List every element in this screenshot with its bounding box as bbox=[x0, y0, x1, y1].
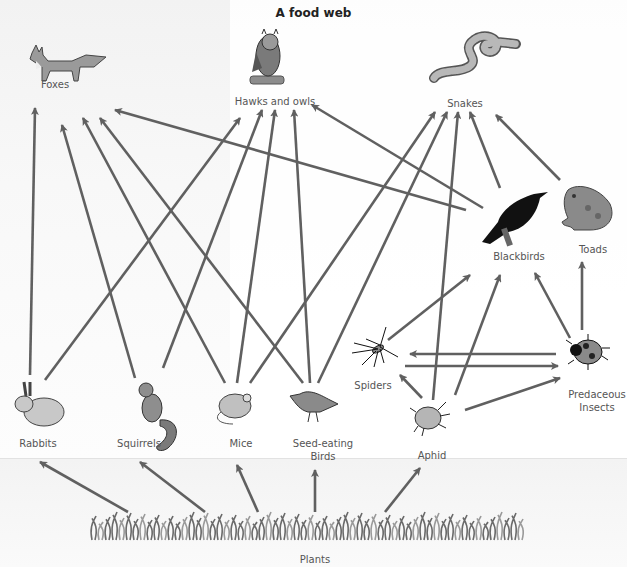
arrow-blackbirds-to-snakes bbox=[470, 112, 500, 188]
aphid-icon bbox=[410, 402, 450, 436]
grass-blade bbox=[308, 515, 313, 540]
label-toads: Toads bbox=[568, 243, 618, 256]
mouse-icon bbox=[217, 394, 251, 424]
grass-blade bbox=[350, 518, 355, 540]
grass-blade bbox=[427, 518, 432, 540]
grass-blade bbox=[483, 522, 488, 540]
owl-icon bbox=[250, 29, 284, 84]
grass-blade bbox=[413, 517, 418, 540]
grass-blade bbox=[196, 518, 201, 540]
grass-blade bbox=[168, 516, 173, 540]
arrow-mice-to-foxes bbox=[83, 118, 225, 383]
grass-blade bbox=[224, 520, 229, 540]
label-squirrels: Squirrels bbox=[109, 437, 169, 450]
grass-blade bbox=[462, 515, 467, 540]
fox-icon bbox=[30, 45, 106, 81]
grass-blade bbox=[294, 514, 299, 540]
grass-blade bbox=[273, 518, 278, 540]
grass-blade bbox=[266, 512, 271, 540]
arrow-spiders-to-blackbirds bbox=[388, 275, 470, 340]
arrow-seedbirds-to-foxes bbox=[100, 118, 303, 383]
grass-blade bbox=[245, 516, 250, 540]
rabbit-icon bbox=[15, 382, 64, 426]
grass-blade bbox=[91, 516, 96, 540]
label-predaceous: Predaceous Insects bbox=[562, 388, 627, 414]
grass-blade bbox=[133, 519, 138, 540]
grass-blade bbox=[105, 517, 110, 540]
grass-blade bbox=[210, 519, 215, 540]
grass-blade bbox=[511, 513, 516, 540]
grass-blade bbox=[203, 513, 208, 540]
toad-icon bbox=[562, 186, 612, 230]
label-seedbirds: Seed-eating Birds bbox=[287, 437, 359, 463]
label-mice: Mice bbox=[218, 437, 264, 450]
snake-icon bbox=[434, 36, 516, 78]
label-spiders: Spiders bbox=[343, 379, 403, 392]
label-plants: Plants bbox=[290, 553, 340, 566]
grass-blade bbox=[231, 515, 236, 540]
arrow-seedbirds-to-hawks bbox=[294, 110, 310, 383]
grass-blade bbox=[378, 520, 383, 540]
arrow-aphid-to-predaceous bbox=[465, 378, 560, 410]
arrow-seedbirds-to-snakes bbox=[318, 112, 447, 383]
label-aphid: Aphid bbox=[407, 449, 457, 462]
label-foxes: Foxes bbox=[30, 78, 80, 91]
grass-blade bbox=[112, 512, 117, 540]
grass-blade bbox=[301, 520, 306, 540]
grass-blade bbox=[392, 521, 397, 540]
grass-blade bbox=[154, 515, 159, 540]
arrow-rabbits-to-foxes bbox=[30, 108, 35, 375]
ladybug-icon bbox=[566, 334, 610, 370]
grass-blade bbox=[504, 518, 509, 540]
arrow-blackbirds-to-foxes bbox=[115, 110, 466, 210]
arrow-plants-to-mice bbox=[237, 465, 258, 512]
grass-blade bbox=[175, 522, 180, 540]
arrow-squirrels-to-foxes bbox=[62, 125, 135, 378]
label-snakes: Snakes bbox=[435, 97, 495, 110]
grass-blade bbox=[119, 518, 124, 540]
grass-blade bbox=[343, 512, 348, 540]
arrow-aphid-to-blackbirds bbox=[455, 275, 500, 395]
label-hawks: Hawks and owls bbox=[225, 95, 325, 108]
grass-blade bbox=[287, 519, 292, 540]
grass-blade bbox=[441, 519, 446, 540]
grass-blade bbox=[182, 517, 187, 540]
grass-blade bbox=[371, 514, 376, 540]
grass-blade bbox=[476, 516, 481, 540]
spider-icon bbox=[352, 327, 398, 367]
arrow-plants-to-aphid bbox=[385, 468, 420, 512]
grass-blade bbox=[420, 512, 425, 540]
arrow-aphid-to-snakes bbox=[433, 112, 458, 400]
arrow-toads-to-snakes bbox=[496, 115, 560, 180]
arrow-plants-to-squirrels bbox=[140, 462, 205, 512]
grass-icon bbox=[91, 512, 523, 540]
food-web-canvas bbox=[0, 0, 627, 567]
grass-blade bbox=[259, 517, 264, 540]
grass-blade bbox=[322, 516, 327, 540]
blackbird-icon bbox=[482, 192, 548, 246]
grass-blade bbox=[98, 522, 103, 540]
songbird-icon bbox=[290, 392, 338, 422]
grass-blade bbox=[434, 513, 439, 540]
arrow-mice-to-snakes bbox=[250, 112, 435, 383]
grass-blade bbox=[497, 512, 502, 540]
grass-blade bbox=[469, 521, 474, 540]
arrow-plants-to-rabbits bbox=[40, 462, 128, 512]
grass-blade bbox=[518, 519, 523, 540]
grass-blade bbox=[315, 521, 320, 540]
grass-blade bbox=[252, 522, 257, 540]
grass-blade bbox=[280, 513, 285, 540]
grass-blade bbox=[448, 514, 453, 540]
grass-blade bbox=[189, 512, 194, 540]
grass-blade bbox=[399, 516, 404, 540]
arrow-rabbits-to-hawks bbox=[45, 118, 240, 380]
grass-blade bbox=[161, 521, 166, 540]
grass-blade bbox=[364, 519, 369, 540]
label-rabbits: Rabbits bbox=[13, 437, 63, 450]
grass-blade bbox=[217, 514, 222, 540]
arrow-predaceous-to-blackbirds bbox=[535, 273, 570, 338]
grass-blade bbox=[140, 514, 145, 540]
grass-blade bbox=[455, 520, 460, 540]
grass-blade bbox=[126, 513, 131, 540]
grass-blade bbox=[357, 513, 362, 540]
